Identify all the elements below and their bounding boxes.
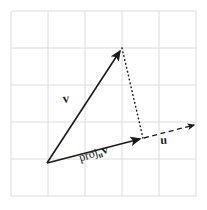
diagram-canvas xyxy=(0,0,207,210)
vector-v-label: v xyxy=(62,90,70,107)
vector-u-dashed-line xyxy=(144,125,194,138)
vector-u-label: u xyxy=(160,133,167,148)
grid-lines xyxy=(11,11,196,196)
perpendicular-drop-line xyxy=(122,48,143,138)
vector-projection-figure: v u projuv xyxy=(0,0,207,210)
